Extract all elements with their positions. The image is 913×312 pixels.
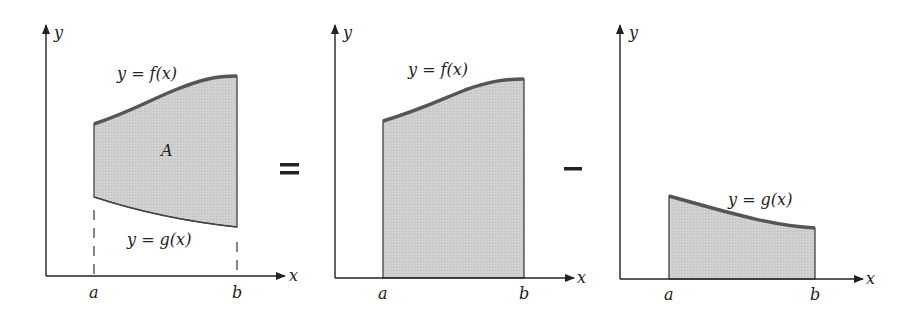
curve-f-label: y = f(x)	[116, 64, 177, 83]
panel-under-f: y x a b y = f(x)	[335, 23, 586, 303]
curve-g-label: y = g(x)	[126, 230, 191, 249]
curve-g-label: y = g(x)	[727, 190, 792, 209]
region-label-a: A	[159, 141, 173, 160]
tick-label-a: a	[664, 285, 674, 304]
tick-label-a: a	[89, 283, 99, 302]
equals-sign	[280, 163, 299, 175]
tick-label-a: a	[378, 284, 388, 303]
panel-under-g: y x a b y = g(x)	[620, 23, 875, 304]
minus-sign	[564, 167, 582, 171]
y-axis-label: y	[342, 23, 353, 42]
y-axis-label: y	[628, 23, 639, 42]
tick-label-b: b	[810, 285, 820, 304]
x-axis-label: x	[289, 266, 298, 285]
tick-label-b: b	[519, 284, 529, 303]
x-axis-label: x	[577, 268, 586, 287]
y-axis-label: y	[53, 23, 64, 42]
panel-combined: y x a b y = f(x) y = g(x) A	[46, 23, 298, 302]
curve-f-label: y = f(x)	[407, 60, 468, 79]
area-between-curves-diagram: y x a b y = f(x) y = g(x) A y x a b y = …	[0, 0, 913, 312]
area-under-f-fill	[383, 79, 524, 278]
x-axis-label: x	[866, 269, 875, 288]
tick-label-b: b	[232, 283, 242, 302]
